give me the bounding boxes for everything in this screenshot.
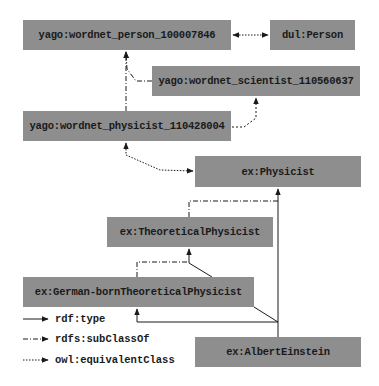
node-person: yago:wordnet_person_100007846 (23, 20, 231, 50)
node-german-born: ex:German-bornTheoreticalPhysicist (23, 277, 254, 307)
edges-layer (0, 0, 379, 386)
edge-scientist-person (126, 52, 152, 81)
legend-subclass-label: rdfs:subClassOf (55, 333, 150, 345)
edge-einstein-theoretical (254, 307, 278, 322)
edge-physicist-exphysicist (126, 143, 193, 171)
edge-theoretical-exphysicist (189, 201, 278, 217)
legend-type-label: rdf:type (55, 313, 105, 325)
node-physicist-yago: yago:wordnet_physicist_110428004 (23, 111, 231, 141)
node-theoretical-physicist: ex:TheoreticalPhysicist (107, 217, 273, 247)
edge-germanborn-theoretical (137, 262, 189, 277)
edge-physicist-scientist (232, 98, 256, 127)
legend-equivalent-label: owl:equivalentClass (55, 354, 175, 366)
node-dul-person: dul:Person (270, 20, 355, 50)
edge-einstein-germanborn (137, 309, 278, 322)
node-scientist: yago:wordnet_scientist_110560637 (152, 66, 360, 96)
node-ex-physicist: ex:Physicist (195, 156, 361, 187)
node-albert-einstein: ex:AlbertEinstein (195, 337, 361, 367)
